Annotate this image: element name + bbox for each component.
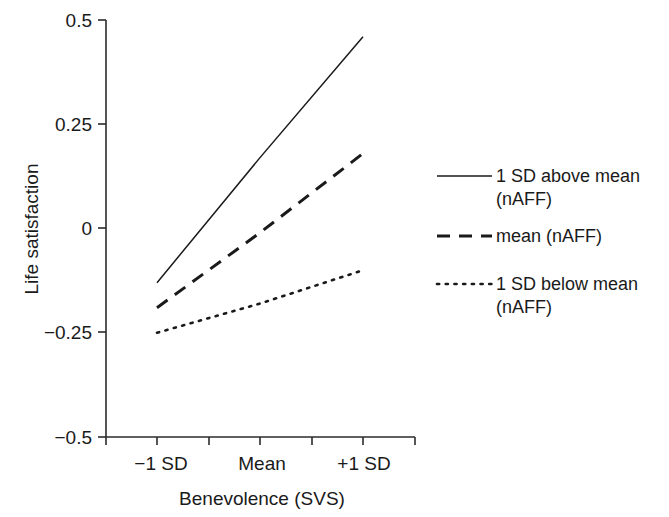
legend: 1 SD above mean (nAFF) mean (nAFF) 1 SD … xyxy=(437,166,640,317)
legend-item-1sd-below-mean: 1 SD below mean (nAFF) xyxy=(437,274,638,317)
chart-figure: 0.5 0.25 0 −0.25 −0.5 −1 SD Mean +1 SD B… xyxy=(0,0,669,517)
y-tick-label-1: 0.25 xyxy=(55,114,92,135)
series-line-mean xyxy=(157,153,363,307)
y-tick-label-0: 0.5 xyxy=(66,10,92,31)
x-tick-label-plus-1sd: +1 SD xyxy=(337,453,390,474)
x-tick-label-mean: Mean xyxy=(238,453,286,474)
y-tick-label-3: −0.25 xyxy=(44,322,92,343)
series-line-1sd-below-mean xyxy=(157,270,363,333)
legend-label-line1: 1 SD above mean xyxy=(496,166,640,186)
y-tick-label-4: −0.5 xyxy=(54,427,92,448)
legend-label-line1: mean (nAFF) xyxy=(496,226,602,246)
legend-label-line2: (nAFF) xyxy=(496,189,552,209)
x-axis-title: Benevolence (SVS) xyxy=(179,488,345,509)
legend-item-1sd-above-mean: 1 SD above mean (nAFF) xyxy=(437,166,640,209)
legend-label-line2: (nAFF) xyxy=(496,297,552,317)
y-tick-label-2: 0 xyxy=(81,218,92,239)
legend-label-line1: 1 SD below mean xyxy=(496,274,638,294)
series-line-1sd-above-mean xyxy=(157,37,363,283)
x-tick-label-minus-1sd: −1 SD xyxy=(134,453,187,474)
y-axis-title: Life satisfaction xyxy=(21,164,42,295)
legend-item-mean: mean (nAFF) xyxy=(437,226,602,246)
